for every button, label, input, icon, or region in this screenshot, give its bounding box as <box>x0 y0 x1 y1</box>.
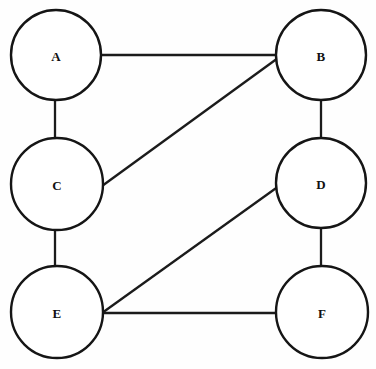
graph-svg: ABCDEF <box>0 0 376 369</box>
graph-edge-c-b <box>102 58 278 186</box>
graph-node-label-f: F <box>318 306 326 321</box>
graph-diagram-canvas: ABCDEF <box>0 0 376 369</box>
graph-node-label-b: B <box>317 49 326 64</box>
nodes-group: ABCDEF <box>11 10 368 358</box>
graph-node-label-e: E <box>53 306 62 321</box>
graph-node-label-c: C <box>52 178 62 193</box>
graph-node-label-d: D <box>316 177 326 192</box>
graph-node-e[interactable]: E <box>11 266 103 358</box>
graph-node-d[interactable]: D <box>276 138 366 228</box>
graph-node-f[interactable]: F <box>276 266 368 358</box>
graph-node-c[interactable]: C <box>11 138 103 230</box>
graph-node-a[interactable]: A <box>11 10 101 100</box>
graph-node-b[interactable]: B <box>276 10 366 100</box>
graph-node-label-a: A <box>51 49 61 64</box>
graph-edge-e-d <box>102 186 279 313</box>
